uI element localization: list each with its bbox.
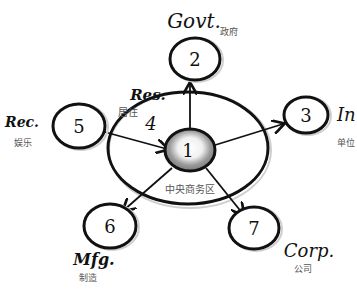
node-7-corporate: 7 [229,207,282,251]
node-2-number: 2 [189,49,200,70]
node-7-number: 7 [248,218,259,239]
zone-diagram: 1 4 Res. 居住 中央商务区 2 Govt. 政府 3 In 单位 5 R… [0,0,357,289]
node-5-recreation: 5 [53,104,108,150]
node-2-label-zh: 政府 [220,26,238,37]
node-3-label-zh: 单位 [337,137,355,148]
node-3-number: 3 [300,105,311,126]
node-5-number: 5 [73,116,84,137]
node-7-label-en: Corp. [284,240,334,261]
node-3-institution: 3 [284,97,331,135]
node-2-label-en: Govt. [167,9,221,33]
ring-label-en: Res. [129,86,166,104]
node-2-govt: 2 [170,38,223,82]
node-6-label-zh: 制造 [79,272,97,283]
node-3-label-en: In [336,104,356,125]
ring-number: 4 [144,113,156,134]
node-6-label-en: Mfg. [72,250,114,269]
node-1-cbd: 1 [165,129,215,171]
node-1-number: 1 [182,140,193,161]
node-5-label-en: Rec. [4,114,39,130]
center-label-zh: 中央商务区 [165,183,215,195]
edge-1-3 [212,124,283,146]
ring-label-zh: 居住 [118,106,138,118]
node-6-number: 6 [104,216,115,237]
node-5-label-zh: 娱乐 [14,137,32,148]
node-7-label-zh: 公司 [294,264,312,274]
node-6-manufacturing: 6 [84,204,139,250]
